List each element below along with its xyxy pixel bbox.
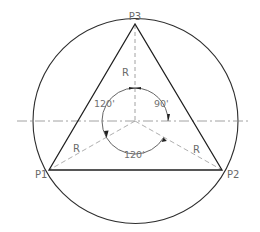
angle-label-upper-right: 90' — [154, 98, 169, 109]
point-label-p3: P3 — [129, 11, 141, 22]
radius-label-left: R — [73, 143, 80, 154]
radius-line-p1 — [49, 121, 135, 170]
radius-label-top: R — [122, 67, 129, 78]
point-label-p1: P1 — [35, 169, 47, 180]
diagram-canvas: P3 P1 P2 R R R 120' 90' 120' — [0, 0, 260, 232]
radius-line-p2 — [135, 121, 222, 170]
point-label-p2: P2 — [227, 169, 239, 180]
radius-label-right: R — [193, 144, 200, 155]
angle-label-bottom: 120' — [124, 149, 145, 160]
angle-label-upper-left: 120' — [94, 98, 115, 109]
